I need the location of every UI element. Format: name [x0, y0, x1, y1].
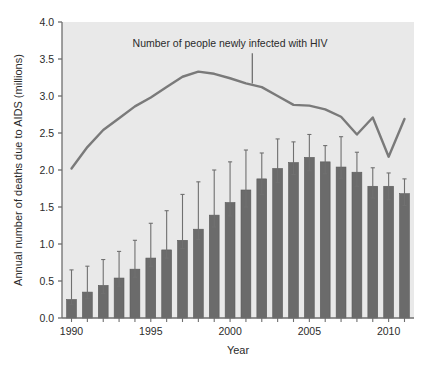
bar [336, 167, 346, 318]
y-axis-tick-label: 1.0 [39, 238, 54, 250]
x-axis-tick-label: 2005 [298, 325, 322, 337]
y-axis-tick-label: 3.0 [39, 90, 54, 102]
bar [352, 172, 362, 318]
bar [320, 162, 330, 318]
y-axis-tick-label: 2.5 [39, 127, 54, 139]
annotation-label: Number of people newly infected with HIV [133, 37, 328, 49]
bar [273, 169, 283, 318]
x-axis-tick-label: 2010 [377, 325, 401, 337]
y-axis-tick-label: 1.5 [39, 201, 54, 213]
x-axis-title: Year [227, 344, 250, 356]
aids-deaths-hiv-infections-chart: 0.00.51.01.52.02.53.03.54.0 199019952000… [0, 0, 439, 384]
y-axis-tick-label: 4.0 [39, 16, 54, 28]
bar [384, 186, 394, 318]
bar [368, 186, 378, 318]
bar [241, 190, 251, 318]
x-axis-tick-label: 2000 [218, 325, 242, 337]
y-axis-tick-label: 3.5 [39, 53, 54, 65]
bar [257, 179, 267, 318]
bar [304, 157, 314, 318]
bar [289, 163, 299, 318]
bar [162, 250, 172, 318]
bar [400, 194, 410, 318]
y-axis-tick-label: 0.0 [39, 312, 54, 324]
y-axis-title: Annual number of deaths due to AIDS (mil… [12, 54, 24, 286]
bar [178, 240, 188, 318]
y-axis-tick-label: 2.0 [39, 164, 54, 176]
bar [225, 203, 235, 318]
x-axis-tick-label: 1990 [60, 325, 84, 337]
bar [193, 229, 203, 318]
y-axis-tick-label: 0.5 [39, 275, 54, 287]
bar [209, 215, 219, 318]
bar [146, 258, 156, 318]
x-axis-tick-label: 1995 [139, 325, 163, 337]
